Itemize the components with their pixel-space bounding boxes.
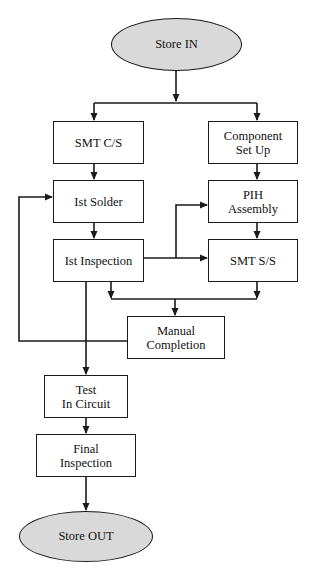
node-label: Component Set Up [224,129,282,157]
node-first-inspection: Ist Inspection [53,239,144,282]
node-final-inspection: Final Inspection [36,434,136,477]
node-label: Store IN [155,37,198,52]
node-label: Manual Completion [146,324,205,352]
node-label: SMT S/S [230,254,276,268]
edge-inspection-to-pih [176,205,207,258]
node-pih-assembly: PIH Assembly [208,180,298,223]
connector-lines [0,0,313,576]
node-label: Ist Solder [74,195,122,209]
node-manual-completion: Manual Completion [127,316,225,359]
node-test-in-circuit: Test In Circuit [44,375,128,418]
node-first-solder: Ist Solder [53,180,144,223]
node-smt-cs: SMT C/S [53,121,144,164]
flowchart: Store IN SMT C/S Component Set Up Ist So… [0,0,313,576]
node-label: Test In Circuit [62,383,110,411]
node-label: Ist Inspection [65,254,133,268]
node-label: Store OUT [58,529,113,544]
node-label: Final Inspection [60,442,112,470]
node-store-out: Store OUT [19,511,153,562]
node-smt-ss: SMT S/S [208,239,298,282]
node-component-setup: Component Set Up [208,121,298,164]
node-label: SMT C/S [75,136,122,150]
node-label: PIH Assembly [228,188,278,216]
node-store-in: Store IN [111,18,242,71]
